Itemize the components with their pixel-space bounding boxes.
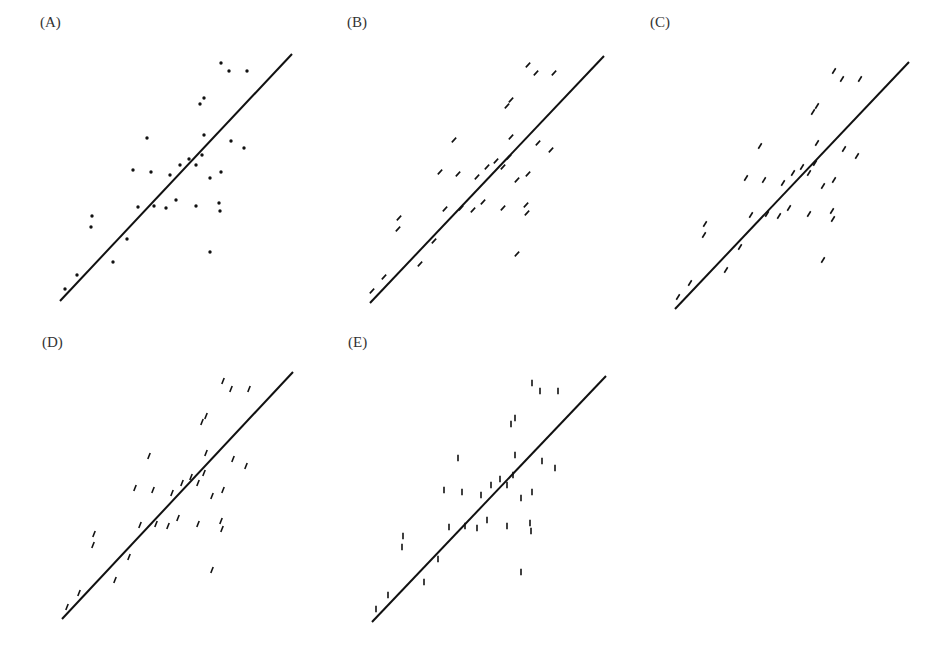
data-point-segment <box>781 180 784 185</box>
data-point <box>194 204 197 207</box>
data-point-segment <box>515 252 519 257</box>
data-point-segment <box>197 521 199 527</box>
data-point-segment <box>524 203 528 208</box>
data-point <box>63 287 66 290</box>
data-point <box>202 96 205 99</box>
data-point-segment <box>703 221 706 226</box>
data-point-segment <box>807 211 810 216</box>
scatterplots-canvas <box>0 0 945 649</box>
data-point-segment <box>855 153 858 158</box>
data-point-segment <box>815 103 818 108</box>
data-point-segment <box>211 493 213 499</box>
data-point-segment <box>222 487 224 493</box>
data-point-segment <box>128 554 130 560</box>
data-point-segment <box>811 109 814 114</box>
data-point <box>242 146 245 149</box>
data-point-segment <box>197 480 199 486</box>
data-point-segment <box>443 207 447 212</box>
data-point-segment <box>821 183 824 188</box>
data-point <box>90 214 93 217</box>
plot-a <box>60 54 292 301</box>
data-point-segment <box>509 98 513 103</box>
data-point <box>227 69 230 72</box>
plot-e <box>372 376 606 622</box>
data-point-segment <box>724 267 727 272</box>
data-point-segment <box>222 378 224 384</box>
data-point <box>178 163 181 166</box>
data-point-segment <box>93 531 95 537</box>
data-point-segment <box>791 170 794 175</box>
data-point-segment <box>501 206 505 211</box>
data-point-segment <box>471 208 475 213</box>
data-point-segment <box>481 200 485 205</box>
data-point-segment <box>787 205 790 210</box>
data-point <box>164 206 167 209</box>
data-point-segment <box>438 170 442 175</box>
data-point-segment <box>245 463 247 469</box>
data-point-segment <box>738 244 741 249</box>
data-point-segment <box>152 487 154 493</box>
data-point-segment <box>220 518 222 524</box>
data-point-segment <box>211 567 213 573</box>
data-point <box>218 209 221 212</box>
data-point <box>219 61 222 64</box>
data-point-segment <box>515 178 519 183</box>
data-point <box>202 133 205 136</box>
data-point-segment <box>78 590 80 596</box>
data-point <box>131 168 134 171</box>
data-point-segment <box>688 280 691 285</box>
data-point <box>174 198 177 201</box>
data-point <box>229 139 232 142</box>
data-point-segment <box>858 76 861 81</box>
data-point <box>219 170 222 173</box>
data-point-segment <box>830 208 833 213</box>
regression-line <box>372 376 606 622</box>
plot-d <box>62 372 293 619</box>
data-point-segment <box>815 140 818 145</box>
data-point-segment <box>505 104 509 109</box>
data-point-segment <box>203 470 205 476</box>
data-point-segment <box>821 257 824 262</box>
regression-line <box>62 372 293 619</box>
regression-line <box>675 62 909 309</box>
data-point <box>75 273 78 276</box>
data-point-segment <box>526 172 530 177</box>
data-point-segment <box>396 227 400 232</box>
data-point <box>125 237 128 240</box>
data-point <box>245 69 248 72</box>
data-point-segment <box>475 175 479 180</box>
data-point-segment <box>832 68 835 73</box>
data-point-segment <box>549 148 553 153</box>
data-point-segment <box>744 175 747 180</box>
data-point-segment <box>702 232 705 237</box>
data-point-segment <box>139 522 141 528</box>
plot-c <box>675 62 909 309</box>
data-point-segment <box>749 212 752 217</box>
regression-line <box>370 56 604 303</box>
data-point <box>208 250 211 253</box>
data-point-segment <box>181 480 183 486</box>
data-point-segment <box>232 456 234 462</box>
data-point <box>194 163 197 166</box>
data-point <box>198 102 201 105</box>
plot-b <box>370 56 604 303</box>
data-point-segment <box>832 177 835 182</box>
data-point-segment <box>758 143 761 148</box>
data-point-segment <box>201 419 203 425</box>
data-point <box>111 260 114 263</box>
data-point-segment <box>494 159 498 164</box>
data-point <box>136 205 139 208</box>
data-point-segment <box>831 216 834 221</box>
data-point-segment <box>92 542 94 548</box>
data-point-segment <box>370 289 374 294</box>
data-point-segment <box>171 490 173 496</box>
data-point <box>187 157 190 160</box>
data-point <box>200 153 203 156</box>
data-point-segment <box>842 146 845 151</box>
data-point-segment <box>526 63 530 68</box>
data-point <box>152 204 155 207</box>
data-point-segment <box>534 71 538 76</box>
data-point-segment <box>167 523 169 529</box>
data-point-segment <box>66 604 68 610</box>
data-point-segment <box>382 275 386 280</box>
